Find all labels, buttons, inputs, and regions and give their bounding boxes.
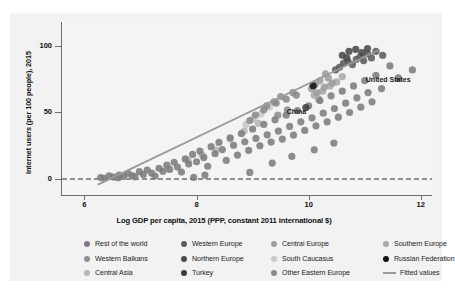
data-point — [223, 157, 230, 164]
data-point — [288, 153, 295, 160]
legend-item-label: Turkey — [192, 269, 213, 277]
data-point — [275, 128, 282, 135]
data-point — [346, 109, 353, 116]
data-point — [290, 132, 297, 139]
legend-item[interactable]: Southern Europe — [383, 237, 455, 252]
legend-item-label: Central Europe — [282, 240, 329, 248]
data-point — [321, 84, 328, 91]
data-point — [364, 45, 371, 52]
data-point — [204, 163, 211, 170]
data-point — [238, 130, 245, 137]
data-point — [293, 92, 300, 99]
legend-column: Rest of the worldWestern BalkansCentral … — [84, 237, 148, 281]
data-point — [313, 89, 320, 96]
x-axis-title: Log GDP per capita, 2015 (PPP, constant … — [0, 216, 448, 225]
legend-item[interactable]: Turkey — [181, 266, 244, 281]
data-point — [196, 147, 203, 154]
data-point — [211, 150, 218, 157]
legend-item-label: Fitted values — [400, 269, 440, 277]
data-point — [283, 96, 290, 103]
data-point — [260, 106, 267, 113]
data-point — [327, 92, 334, 99]
data-point — [246, 117, 253, 124]
y-axis-tick — [55, 112, 61, 113]
x-axis-tick-label: 10 — [304, 200, 312, 209]
y-axis-tick — [55, 179, 61, 180]
data-point — [193, 158, 200, 165]
data-point — [409, 66, 416, 73]
chart-legend: Rest of the worldWestern BalkansCentral … — [84, 237, 430, 281]
data-point — [324, 118, 331, 125]
legend-item[interactable]: South Caucasus — [271, 252, 350, 267]
data-point — [252, 135, 259, 142]
data-point — [234, 151, 241, 158]
data-point — [364, 89, 371, 96]
data-point — [252, 112, 259, 119]
data-point — [329, 80, 336, 87]
data-point — [249, 125, 256, 132]
data-point — [201, 171, 208, 178]
y-axis-title: Internet users (per 100 people), 2015 — [24, 23, 33, 203]
legend-item[interactable]: Fitted values — [383, 266, 455, 281]
y-axis-line — [61, 22, 62, 196]
data-point — [316, 97, 323, 104]
legend-item[interactable]: Central Asia — [84, 266, 148, 281]
x-axis-tick-label: 6 — [82, 200, 86, 209]
annotation-united-states: United States — [366, 76, 411, 83]
legend-dot-marker — [271, 241, 277, 247]
data-point — [246, 169, 253, 176]
legend-line-marker — [383, 272, 396, 274]
data-point — [208, 143, 215, 150]
data-point — [230, 142, 237, 149]
data-point — [269, 159, 276, 166]
legend-item[interactable]: Northern Europe — [181, 252, 244, 267]
plot-area — [62, 22, 432, 195]
data-point — [297, 118, 304, 125]
legend-dot-marker — [84, 241, 90, 247]
legend-item-label: Rest of the world — [95, 240, 147, 248]
y-axis-tick-label: 100 — [39, 41, 52, 50]
data-point — [386, 62, 393, 69]
legend-item-label: Russian Federation — [394, 255, 455, 263]
legend-dot-marker — [181, 256, 187, 262]
data-point — [264, 131, 271, 138]
data-point — [335, 114, 342, 121]
legend-column: Central EuropeSouth CaucasusOther Easter… — [271, 237, 350, 281]
data-point — [241, 138, 248, 145]
legend-item[interactable]: Rest of the world — [84, 237, 148, 252]
legend-dot-marker — [84, 256, 90, 262]
legend-column: Southern EuropeRussian FederationFitted … — [383, 237, 455, 281]
legend-item-label: Central Asia — [95, 269, 133, 277]
legend-dot-marker — [181, 241, 187, 247]
x-axis-line — [61, 195, 432, 196]
data-point — [330, 140, 337, 147]
data-point — [286, 123, 293, 130]
legend-item[interactable]: Western Balkans — [84, 252, 148, 267]
data-point — [343, 54, 350, 61]
data-point — [311, 146, 318, 153]
data-point — [350, 82, 357, 89]
data-point — [345, 48, 352, 55]
legend-dot-marker — [271, 270, 277, 276]
legend-item[interactable]: Other Eastern Europe — [271, 266, 350, 281]
annotation-china: China — [287, 108, 306, 115]
data-point — [185, 160, 192, 167]
legend-item[interactable]: Central Europe — [271, 237, 350, 252]
legend-item[interactable]: Western Europe — [181, 237, 244, 252]
legend-item[interactable]: Russian Federation — [383, 252, 455, 267]
data-point — [342, 100, 349, 107]
data-point — [219, 146, 226, 153]
data-point — [159, 168, 166, 175]
legend-dot-marker — [383, 256, 389, 262]
scatter-plot-svg — [62, 22, 432, 195]
data-point — [189, 151, 196, 158]
data-point — [215, 139, 222, 146]
data-point — [339, 73, 346, 80]
data-point — [151, 173, 158, 180]
series-central-asia — [185, 120, 262, 164]
data-point — [227, 134, 234, 141]
data-point — [166, 166, 173, 173]
data-point — [200, 154, 207, 161]
legend-item-label: Southern Europe — [394, 240, 447, 248]
